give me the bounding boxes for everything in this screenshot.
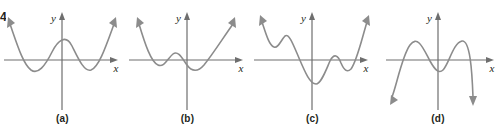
- graph-panel-a: y x (a): [0, 0, 125, 140]
- axes-c: [254, 12, 368, 110]
- curve-left-arrow-icon: [390, 95, 398, 105]
- x-axis-label: x: [113, 62, 119, 74]
- axes-b: [129, 12, 243, 110]
- plot-area-c: y x: [250, 0, 375, 115]
- x-axis-label: x: [363, 62, 369, 74]
- y-axis-arrow-icon: [184, 12, 190, 20]
- plot-area-d: y x: [376, 0, 501, 115]
- graph-panel-c: y x (c): [250, 0, 375, 140]
- graph-panel-d: y x (d): [375, 0, 501, 140]
- panel-row: y x (a) y: [0, 0, 501, 140]
- x-axis-label: x: [488, 62, 494, 74]
- y-axis-arrow-icon: [59, 12, 65, 20]
- graph-panel-b: y x (b): [125, 0, 250, 140]
- y-axis-arrow-icon: [435, 12, 441, 20]
- y-axis-arrow-icon: [309, 12, 315, 20]
- y-axis-label: y: [50, 12, 56, 24]
- curve-right-arrow-icon: [469, 96, 477, 106]
- curve-b: [139, 24, 233, 70]
- plot-area-b: y x: [125, 0, 250, 115]
- curve-c: [262, 22, 367, 84]
- y-axis-label: y: [300, 12, 306, 24]
- plot-area-a: y x: [0, 0, 125, 115]
- curve-d: [392, 41, 473, 97]
- x-axis-label: x: [238, 62, 244, 74]
- y-axis-label: y: [426, 12, 432, 24]
- y-axis-label: y: [175, 12, 181, 24]
- polynomial-graphs-figure: 4 y x (a): [0, 0, 501, 140]
- axes-a: [4, 12, 118, 110]
